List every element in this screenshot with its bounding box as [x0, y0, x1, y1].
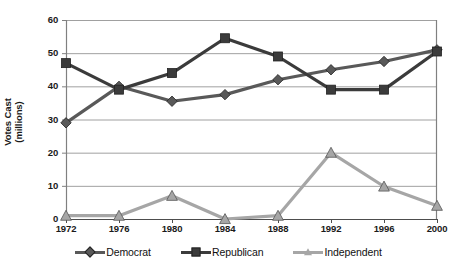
data-point-marker-diamond	[220, 89, 230, 99]
legend-label: Independent	[323, 246, 381, 258]
legend-marker-square-icon	[191, 248, 200, 257]
data-point-marker-square	[168, 69, 177, 78]
data-point-marker-square	[327, 85, 336, 94]
gridlines	[66, 21, 437, 187]
series-independent	[61, 147, 443, 223]
data-point-marker-triangle	[326, 147, 337, 157]
legend-marker-triangle-icon	[304, 248, 312, 255]
axes	[62, 20, 438, 223]
x-tick-label: 1972	[46, 223, 86, 234]
y-axis-title-line1: Votes Cast	[2, 98, 13, 145]
data-point-marker-diamond	[167, 96, 177, 106]
data-point-marker-triangle	[167, 190, 178, 200]
y-axis-title: Votes Cast(millions)	[2, 62, 24, 182]
y-tick-label: 30	[36, 114, 58, 125]
legend-label: Republican	[211, 246, 264, 258]
data-point-marker-square	[115, 85, 124, 94]
x-tick-label: 1996	[364, 223, 404, 234]
y-tick-label: 20	[36, 147, 58, 158]
legend-swatch-independent	[293, 246, 323, 258]
data-point-marker-diamond	[273, 75, 283, 85]
data-point-marker-square	[433, 47, 442, 56]
legend-swatch-democrat	[75, 246, 105, 258]
legend-item-independent[interactable]: Independent	[293, 246, 381, 258]
data-point-marker-square	[380, 85, 389, 94]
votes-cast-line-chart: Votes Cast(millions) 0102030405060 19721…	[0, 0, 457, 267]
x-tick-label: 1984	[205, 223, 245, 234]
data-point-marker-square	[221, 34, 230, 43]
x-tick-label: 2000	[417, 223, 457, 234]
x-tick-label: 1992	[311, 223, 351, 234]
data-point-marker-square	[62, 59, 71, 68]
y-axis-title-line2: (millions)	[13, 101, 24, 142]
data-point-marker-diamond	[326, 65, 336, 75]
chart-legend: DemocratRepublicanIndependent	[0, 246, 457, 258]
legend-item-democrat[interactable]: Democrat	[75, 246, 151, 258]
data-point-marker-diamond	[379, 56, 389, 66]
x-tick-label: 1980	[152, 223, 192, 234]
y-tick-label: 60	[36, 14, 58, 25]
legend-swatch-republican	[181, 246, 211, 258]
data-point-marker-square	[274, 52, 283, 61]
legend-marker-diamond-icon	[85, 246, 96, 257]
y-tick-label: 50	[36, 47, 58, 58]
y-tick-label: 40	[36, 80, 58, 91]
legend-label: Democrat	[105, 246, 151, 258]
x-tick-label: 1976	[99, 223, 139, 234]
y-tick-label: 10	[36, 180, 58, 191]
x-tick-label: 1988	[258, 223, 298, 234]
legend-item-republican[interactable]: Republican	[181, 246, 264, 258]
